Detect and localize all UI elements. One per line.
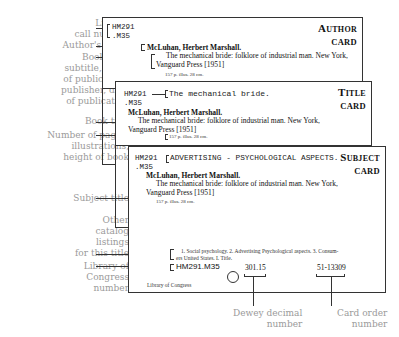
card-type-line2: card bbox=[340, 101, 366, 111]
call-number-line2: .M35 bbox=[124, 99, 142, 108]
title-block-bracket bbox=[151, 54, 155, 69]
tracings-line1: 1. Social psychology. 2. Advertising Psy… bbox=[181, 248, 338, 254]
title-line: The mechanical bride: folklore of indust… bbox=[138, 116, 320, 125]
card-order-number: 51-13309 bbox=[317, 263, 346, 272]
title-card-extension-foot bbox=[115, 227, 129, 228]
author-card-extension-foot bbox=[102, 164, 116, 165]
call-number-line1: HM291 bbox=[112, 23, 135, 32]
subject-card-type: Subject card bbox=[340, 151, 380, 178]
author-card: Author card HM291 .M35 McLuhan, Herbert … bbox=[102, 17, 363, 89]
card-type-line1: Subject bbox=[340, 151, 380, 163]
publisher-line: Vanguard Press [1951] bbox=[146, 188, 214, 197]
label-other-listings: Other catalog listings for this title bbox=[75, 215, 129, 259]
loc-number: HM291.M35 bbox=[176, 262, 220, 271]
card-hole bbox=[227, 271, 239, 283]
tracings-bracket bbox=[170, 249, 174, 260]
call-number-line1: HM291 bbox=[124, 90, 147, 99]
collation: 157 p. illus. 28 cm. bbox=[169, 134, 207, 139]
title-heading-leader bbox=[152, 94, 165, 95]
tracings-line2: ers United States. I. Title. bbox=[176, 255, 232, 261]
title-card-type: Title card bbox=[338, 86, 366, 113]
card-type-line2: card bbox=[354, 166, 380, 176]
subject-heading-bracket bbox=[166, 155, 169, 163]
label-dewey: Dewey decimal number bbox=[233, 308, 302, 330]
subject-card: Subject card HM291 .M35 ADVERTISING - PS… bbox=[128, 146, 386, 293]
author-bracket bbox=[141, 44, 145, 51]
loc-number-bracket bbox=[170, 264, 174, 271]
collation: 157 p. illus. 28 cm. bbox=[165, 72, 203, 77]
collation-bracket bbox=[165, 134, 168, 140]
title-line: The mechanical bride: folklore of indust… bbox=[166, 51, 348, 60]
library-name: Library of Congress bbox=[147, 282, 191, 288]
title-card: Title card HM291 .M35 The mechanical bri… bbox=[115, 81, 372, 146]
call-number-line2: .M35 bbox=[112, 32, 130, 41]
dewey-bracket bbox=[244, 274, 266, 277]
collation: 157 p. illus. 28 cm. bbox=[156, 199, 194, 204]
subject-heading: ADVERTISING - PSYCHOLOGICAL ASPECTS. bbox=[170, 154, 338, 163]
card-type-line1: Title bbox=[338, 86, 366, 98]
author-card-type: Author card bbox=[318, 22, 357, 49]
publisher-line: Vanguard Press [1951] bbox=[128, 125, 196, 134]
dewey-number: 301.15 bbox=[245, 263, 266, 272]
leader-card-order bbox=[331, 276, 332, 306]
call-number-line1: HM291 bbox=[135, 154, 158, 163]
leader-dewey bbox=[253, 276, 254, 306]
title-line: The mechanical bride: folklore of indust… bbox=[156, 179, 338, 188]
label-card-order: Card order number bbox=[337, 308, 387, 330]
publisher-line: Vanguard Press [1951] bbox=[156, 60, 224, 69]
title-heading-bracket bbox=[165, 90, 168, 98]
card-type-line2: card bbox=[331, 37, 357, 47]
card-type-line1: Author bbox=[318, 22, 357, 34]
call-number-bracket bbox=[107, 24, 110, 38]
title-heading: The mechanical bride. bbox=[169, 89, 270, 98]
